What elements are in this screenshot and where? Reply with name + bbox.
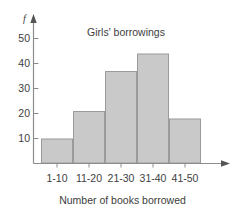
x-axis-title: Number of books borrowed: [20, 194, 225, 206]
bar-31-40: [138, 54, 169, 163]
x-tick-label-41-50: 41-50: [165, 172, 205, 184]
bar-1-10: [42, 139, 73, 163]
y-tick-label-50: 50: [10, 32, 30, 44]
y-axis-arrow-icon: [30, 14, 36, 23]
histogram-figure: Girls' borrowings f Number of books borr…: [0, 0, 241, 216]
bar-41-50: [170, 119, 201, 163]
y-tick-label-30: 30: [10, 82, 30, 94]
bar-21-30: [106, 72, 137, 164]
bars-group: [42, 54, 201, 163]
bar-11-20: [74, 112, 105, 164]
y-tick-label-10: 10: [10, 132, 30, 144]
y-axis-label: f: [23, 13, 26, 24]
x-axis-arrow-icon: [221, 160, 230, 166]
y-tick-label-20: 20: [10, 107, 30, 119]
chart-title: Girls' borrowings: [70, 26, 182, 38]
y-tick-label-40: 40: [10, 57, 30, 69]
